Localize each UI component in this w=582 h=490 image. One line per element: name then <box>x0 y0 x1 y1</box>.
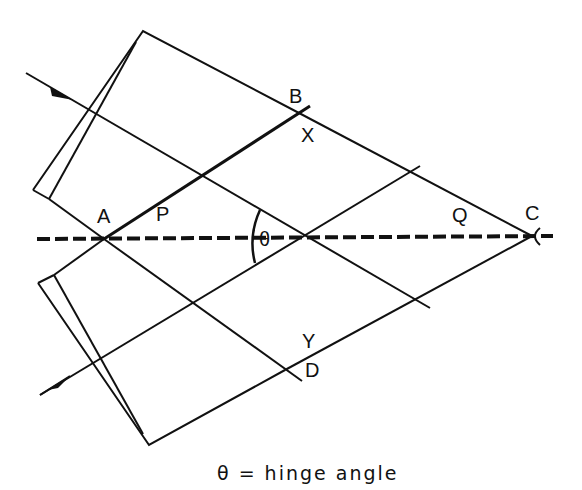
label-P: P <box>156 203 169 225</box>
label-C: C <box>525 202 539 224</box>
caption: θ = hinge angle <box>217 462 399 484</box>
upper-ray <box>26 73 430 308</box>
label-Q: Q <box>452 204 468 226</box>
label-B: B <box>289 85 302 107</box>
hinge-angle-diagram: A P B X Q C θ Y D θ = hinge angle <box>0 0 582 490</box>
lower-ray <box>40 166 420 395</box>
label-X: X <box>301 124 314 146</box>
line-AD <box>104 239 302 381</box>
label-Y: Y <box>302 330 315 352</box>
hinge-line-AB <box>104 106 310 239</box>
label-A: A <box>97 205 111 227</box>
axis-dashed-line <box>37 236 553 239</box>
label-D: D <box>305 359 319 381</box>
line-DC <box>285 236 532 370</box>
label-theta: θ <box>259 228 270 250</box>
